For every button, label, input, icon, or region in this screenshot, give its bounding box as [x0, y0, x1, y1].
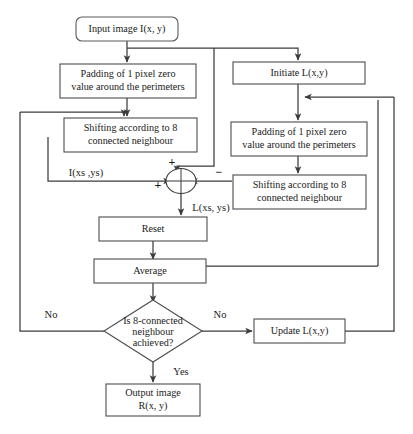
edge-feedback-left-into-shift-left — [20, 112, 124, 116]
sign-plus-left: + — [155, 178, 162, 192]
node-decision[interactable]: Is 8-connected neighbour achieved? — [104, 300, 202, 362]
node-output-line1: Output image — [125, 387, 181, 398]
node-initiate[interactable]: Initiate L(x,y) — [233, 62, 365, 84]
sign-plus-top: + — [169, 155, 176, 169]
node-output-line2: R(x, y) — [139, 400, 168, 412]
sign-minus-right: − — [216, 165, 223, 179]
node-average[interactable]: Average — [94, 259, 206, 283]
node-input-image-label: Input image I(x, y) — [89, 23, 166, 35]
node-decision-line3: achieved? — [133, 337, 174, 348]
node-padding-right-line2: value around the perimeters — [242, 139, 355, 150]
node-update[interactable]: Update L(x,y) — [254, 319, 345, 343]
node-average-label: Average — [133, 265, 167, 276]
node-shifting-right-line2: connected neighbour — [257, 192, 343, 203]
node-padding-left-line2: value around the perimeters — [71, 81, 184, 92]
node-reset-label: Reset — [142, 223, 165, 234]
node-shifting-right[interactable]: Shifting according to 8 connected neighb… — [233, 175, 366, 209]
flowchart-svg: Input image I(x, y) Padding of 1 pixel z… — [0, 0, 413, 434]
node-padding-left[interactable]: Padding of 1 pixel zero value around the… — [60, 64, 196, 98]
node-shifting-right-line1: Shifting according to 8 — [253, 179, 347, 190]
flowchart-canvas: Input image I(x, y) Padding of 1 pixel z… — [0, 0, 413, 434]
edge-label-no-left: No — [45, 309, 58, 320]
node-reset[interactable]: Reset — [99, 217, 207, 241]
node-shifting-left[interactable]: Shifting according to 8 connected neighb… — [64, 118, 197, 152]
node-padding-right-line1: Padding of 1 pixel zero — [251, 126, 346, 137]
edge-label-yes: Yes — [173, 366, 188, 377]
node-shifting-left-line2: connected neighbour — [88, 135, 174, 146]
summing-junction[interactable] — [166, 169, 196, 194]
edge-label-l-signal: L(xs, ys) — [192, 202, 230, 214]
node-input-image[interactable]: Input image I(x, y) — [76, 17, 178, 41]
node-padding-left-line1: Padding of 1 pixel zero — [80, 68, 175, 79]
node-output[interactable]: Output image R(x, y) — [106, 384, 200, 416]
edge-label-i-signal: I(xs ,ys) — [69, 167, 104, 179]
node-decision-line2: neighbour — [132, 326, 174, 337]
edge-input-to-initiate — [127, 48, 298, 60]
node-decision-line1: Is 8-connected — [123, 315, 183, 326]
node-update-label: Update L(x,y) — [271, 325, 329, 337]
node-initiate-label: Initiate L(x,y) — [270, 67, 327, 79]
node-shifting-left-line1: Shifting according to 8 — [84, 122, 178, 133]
edge-label-no-right: No — [214, 309, 227, 320]
node-padding-right[interactable]: Padding of 1 pixel zero value around the… — [231, 122, 367, 156]
